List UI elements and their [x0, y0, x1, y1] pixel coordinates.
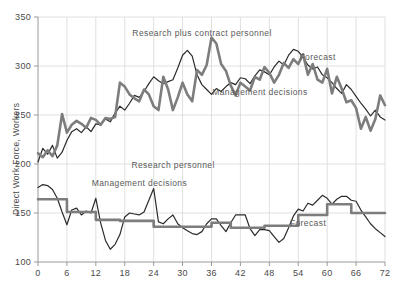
x-tick-label: 60 — [322, 268, 333, 278]
x-tick-label: 54 — [293, 268, 304, 278]
y-tick-label: 150 — [15, 208, 31, 218]
annotation-label: Forecast — [300, 52, 336, 63]
x-tick-label: 48 — [264, 268, 275, 278]
x-tick-label: 36 — [206, 268, 217, 278]
x-tick-label: 42 — [235, 268, 246, 278]
x-tick-label: 6 — [64, 268, 69, 278]
x-tick-label: 24 — [148, 268, 159, 278]
y-tick-label: 300 — [15, 61, 31, 71]
annotation-label: Management decisions — [92, 178, 187, 189]
chart-figure: Direct Work Force, Workers 0612182430364… — [0, 0, 400, 287]
chart-plot: 0612182430364248546066721001502002503003… — [0, 0, 400, 287]
x-tick-label: 72 — [380, 268, 391, 278]
annotation-label: Research plus contract personnel — [132, 28, 271, 39]
annotation-label: Research personnel — [131, 160, 214, 171]
x-tick-label: 0 — [35, 268, 40, 278]
x-tick-label: 30 — [177, 268, 188, 278]
y-tick-label: 200 — [15, 159, 31, 169]
annotation-label: Management decisions — [212, 87, 307, 98]
y-tick-label: 100 — [15, 257, 31, 267]
y-tick-label: 350 — [15, 12, 31, 22]
y-tick-label: 250 — [15, 110, 31, 120]
x-tick-label: 66 — [351, 268, 362, 278]
x-tick-label: 12 — [91, 268, 102, 278]
annotation-label: Forecast — [290, 218, 326, 229]
x-tick-label: 18 — [119, 268, 130, 278]
